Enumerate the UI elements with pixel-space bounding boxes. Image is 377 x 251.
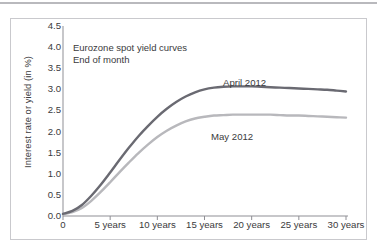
- series-label-may-2012: May 2012: [211, 131, 253, 142]
- top-divider-rule: [0, 2, 377, 4]
- series-curve-april-2012: [63, 86, 346, 214]
- line-chart-plot: [11, 19, 368, 241]
- chart-figure-frame: Interest rate or yield (in %) 0.00.51.01…: [10, 18, 367, 240]
- series-label-april-2012: April 2012: [223, 77, 266, 88]
- series-curve-may-2012: [63, 115, 346, 215]
- chart-title-block: Eurozone spot yield curves End of month: [73, 42, 187, 67]
